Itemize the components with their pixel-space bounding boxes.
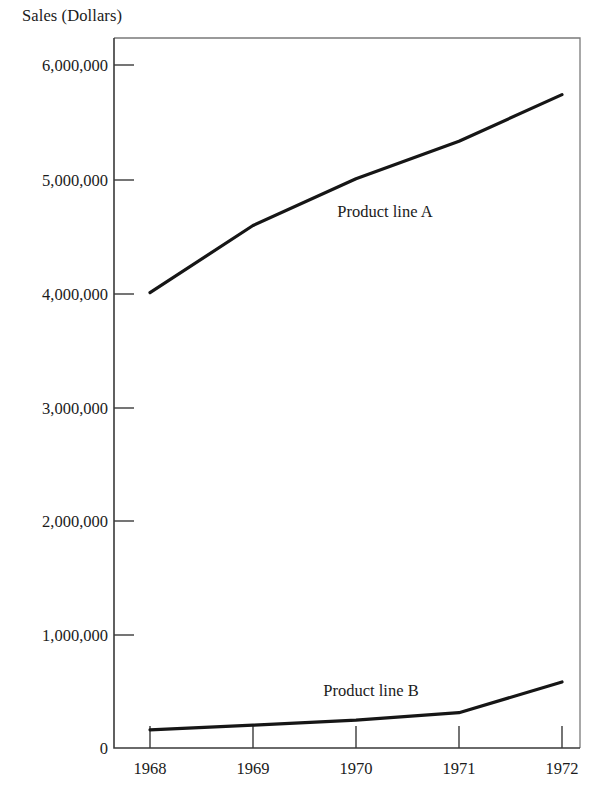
y-tick-label-6000000: 6,000,000 [42,56,108,75]
y-axis-ticks [114,65,134,635]
y-axis-tick-labels: 6,000,000 5,000,000 4,000,000 3,000,000 … [42,56,108,758]
y-tick-label-5000000: 5,000,000 [42,171,108,190]
y-tick-label-3000000: 3,000,000 [42,399,108,418]
y-tick-label-2000000: 2,000,000 [42,512,108,531]
sales-line-chart: Sales (Dollars) 6,000,000 5,000,000 4,00… [0,0,606,791]
x-axis-ticks [150,726,562,748]
x-axis-tick-labels: 1968 1969 1970 1971 1972 [134,759,579,778]
series-label-product-line-a: Product line A [337,202,432,221]
x-tick-label-1971: 1971 [443,759,476,778]
x-tick-label-1968: 1968 [134,759,167,778]
y-tick-label-1000000: 1,000,000 [42,626,108,645]
x-tick-label-1970: 1970 [340,759,373,778]
series-line-product-line-a [150,95,562,293]
y-tick-label-4000000: 4,000,000 [42,285,108,304]
x-tick-label-1972: 1972 [546,759,579,778]
plot-frame [114,38,580,748]
y-tick-label-0: 0 [100,739,108,758]
axes [114,38,580,748]
x-tick-label-1969: 1969 [237,759,270,778]
series-label-product-line-b: Product line B [323,681,418,700]
chart-plot-area: 6,000,000 5,000,000 4,000,000 3,000,000 … [0,0,606,791]
